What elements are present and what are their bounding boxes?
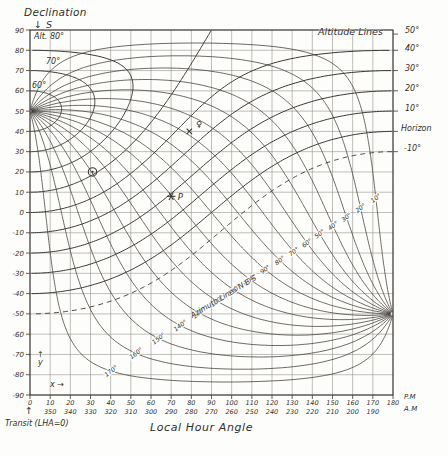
azimuth-line-label: 140°	[172, 318, 188, 333]
azimuth-line-label: 50°	[313, 227, 326, 239]
azimuth-line-label: 40°	[326, 219, 339, 231]
x-tick-label-am: 330	[84, 408, 96, 416]
y-tick-label: 70	[15, 67, 24, 75]
x-tick-label-pm: 50	[127, 399, 135, 407]
azimuth-curve	[31, 112, 391, 346]
y-tick-label: -60	[13, 331, 25, 339]
chart-canvas: 9080706050403020100-10-20-30-40-50-60-70…	[0, 0, 448, 456]
am-label: A.M	[404, 406, 417, 413]
x-tick-label-am: 350	[44, 408, 56, 416]
x-tick-label-pm: 130	[286, 399, 298, 407]
y-tick-label: -40	[13, 290, 25, 298]
altitude-label-80: Alt. 80°	[34, 33, 64, 41]
x-tick-label-am: 270	[205, 408, 217, 416]
x-tick-label-am: 260	[225, 408, 237, 416]
y-tick-label: 10	[15, 189, 24, 197]
x-axis-title: Local Hour Angle	[150, 422, 253, 434]
x-tick-label-pm: 10	[46, 399, 54, 407]
transit-arrow-icon: ↑	[25, 406, 33, 416]
azimuth-line-label: 160°	[128, 346, 144, 361]
y-tick-label: 0	[20, 209, 25, 217]
y-tick-label: -30	[13, 270, 25, 278]
altitude-label-minus10: -10°	[404, 145, 421, 153]
azimuth-curve	[32, 105, 391, 313]
azimuth-line-label: 60°	[300, 237, 313, 249]
x-tick-label-am: 230	[286, 408, 298, 416]
x-tick-label-pm: 160	[346, 399, 358, 407]
x-tick-label-am: 340	[64, 408, 76, 416]
sun-marker-dot	[91, 171, 93, 173]
y-tick-label: 40	[15, 128, 24, 136]
y-tick-label: 30	[15, 148, 24, 156]
y-direction-indicator: ↑ y	[37, 351, 44, 367]
x-tick-label-pm: 110	[246, 399, 258, 407]
y-tick-label: 60	[15, 87, 24, 95]
y-tick-label: -20	[13, 250, 25, 258]
altitude-lines-legend: Altitude Lines	[318, 27, 383, 37]
azimuth-line-label: 70°	[287, 245, 300, 257]
x-direction-indicator: x →	[50, 381, 64, 389]
x-tick-label-pm: 180	[387, 399, 399, 407]
altitude-label-70: 70°	[46, 58, 60, 66]
altitude-label-30: 30°	[405, 65, 419, 73]
pm-label: P.M	[404, 394, 416, 401]
y-tick-label: -50	[13, 310, 25, 318]
x-tick-label-pm: 80	[187, 399, 195, 407]
x-tick-label-am: 250	[246, 408, 258, 416]
x-tick-label-am: 240	[266, 408, 278, 416]
azimuth-line-label: 150°	[150, 331, 166, 346]
x-tick-label-am: 290	[165, 408, 177, 416]
south-label: S	[46, 20, 52, 30]
x-tick-label-pm: 30	[86, 399, 94, 407]
altitude-label-10: 10°	[405, 105, 419, 113]
x-tick-label-am: 280	[185, 408, 197, 416]
x-tick-label-pm: 140	[306, 399, 318, 407]
altitude-label-50: 50°	[405, 27, 419, 35]
y-tick-label: 80	[15, 47, 24, 55]
azimuth-line-label: 10°	[369, 192, 382, 204]
x-tick-label-pm: 20	[66, 399, 74, 407]
y-tick-label: -90	[13, 392, 25, 400]
point-label: P	[178, 192, 184, 202]
x-tick-label-am: 300	[145, 408, 157, 416]
star-altitude-azimuth-chart: 9080706050403020100-10-20-30-40-50-60-70…	[0, 0, 448, 456]
altitude-label-20: 20°	[405, 85, 419, 93]
azimuth-curve	[31, 80, 391, 313]
altitude-label-40: 40°	[405, 45, 419, 53]
y-tick-label: -80	[13, 371, 25, 379]
point-venus: ♀	[187, 119, 202, 134]
transit-label: Transit (LHA=0)	[5, 420, 69, 428]
y-tick-label: 20	[15, 168, 24, 176]
x-tick-label-am: 210	[326, 408, 338, 416]
point-label: ♀	[196, 119, 202, 129]
x-tick-label-pm: 90	[207, 399, 215, 407]
x-tick-label-pm: 70	[167, 399, 175, 407]
x-tick-label-pm: 170	[367, 399, 379, 407]
south-arrow-icon: ↓	[34, 20, 42, 30]
y-tick-label: 90	[15, 27, 24, 35]
x-tick-label-am: 220	[306, 408, 318, 416]
y-tick-label: -10	[13, 229, 25, 237]
x-tick-label-pm: 150	[326, 399, 338, 407]
x-tick-label-am: 200	[346, 408, 358, 416]
azimuth-curve	[32, 112, 391, 327]
y-letter: y	[38, 359, 43, 367]
x-tick-label-am: 190	[367, 408, 379, 416]
altitude-label-60: 60°	[32, 82, 46, 90]
horizon-label: Horizon	[401, 125, 432, 133]
y-tick-label: -70	[13, 351, 25, 359]
x-tick-label-pm: 60	[147, 399, 155, 407]
x-tick-label-pm: 120	[266, 399, 278, 407]
x-tick-label-pm: 100	[225, 399, 237, 407]
y-axis-title: Declination	[24, 7, 87, 18]
y-tick-label: 50	[15, 108, 24, 116]
x-tick-label-am: 320	[104, 408, 116, 416]
x-tick-label-am: 310	[125, 408, 137, 416]
x-tick-label-pm: 40	[107, 399, 115, 407]
azimuth-line-label: 20°	[354, 202, 367, 214]
azimuth-curve	[32, 112, 391, 320]
